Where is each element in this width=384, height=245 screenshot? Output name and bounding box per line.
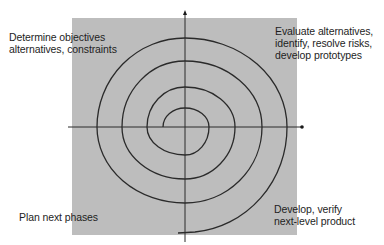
label-line: Determine objectives bbox=[9, 31, 117, 43]
label-line: develop prototypes bbox=[275, 49, 373, 61]
horizontal-axis-arrow-icon bbox=[300, 125, 304, 129]
label-line: next-level product bbox=[274, 215, 355, 227]
label-line: Plan next phases bbox=[19, 211, 98, 223]
quadrant-label-evaluate-alternatives: Evaluate alternatives, identify, resolve… bbox=[275, 25, 373, 61]
quadrant-label-plan-next-phases: Plan next phases bbox=[19, 211, 98, 223]
label-line: Develop, verify bbox=[274, 203, 355, 215]
quadrant-label-determine-objectives: Determine objectives alternatives, const… bbox=[9, 31, 117, 55]
label-line: Evaluate alternatives, bbox=[275, 25, 373, 37]
label-line: identify, resolve risks, bbox=[275, 37, 373, 49]
quadrant-label-develop-verify: Develop, verify next-level product bbox=[274, 203, 355, 227]
vertical-axis-arrow-icon bbox=[183, 10, 187, 15]
label-line: alternatives, constraints bbox=[9, 43, 117, 55]
